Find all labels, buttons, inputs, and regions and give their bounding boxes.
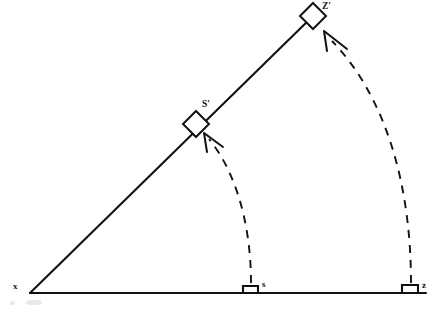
hypotenuse-segment-x-zprime [30,16,313,293]
scan-artifact-speck [10,301,15,305]
right-angle-marker-z [402,285,418,293]
arrowhead-z-prime [324,31,347,51]
rotation-arc-s-to-s-prime [209,139,251,283]
label-foot-s: s [262,280,266,289]
label-point-s-prime: S' [202,100,210,110]
rotation-arc-z-to-z-prime [332,41,411,283]
scan-artifact-speck [26,300,42,305]
label-foot-z: z [422,281,426,290]
arrowhead-s-prime [204,133,223,152]
label-point-z-prime: Z' [322,2,331,12]
geometry-vector-layer [0,0,433,310]
geometry-diagram-canvas: x s z S' Z' [0,0,433,310]
label-vertex-x: x [13,282,18,291]
